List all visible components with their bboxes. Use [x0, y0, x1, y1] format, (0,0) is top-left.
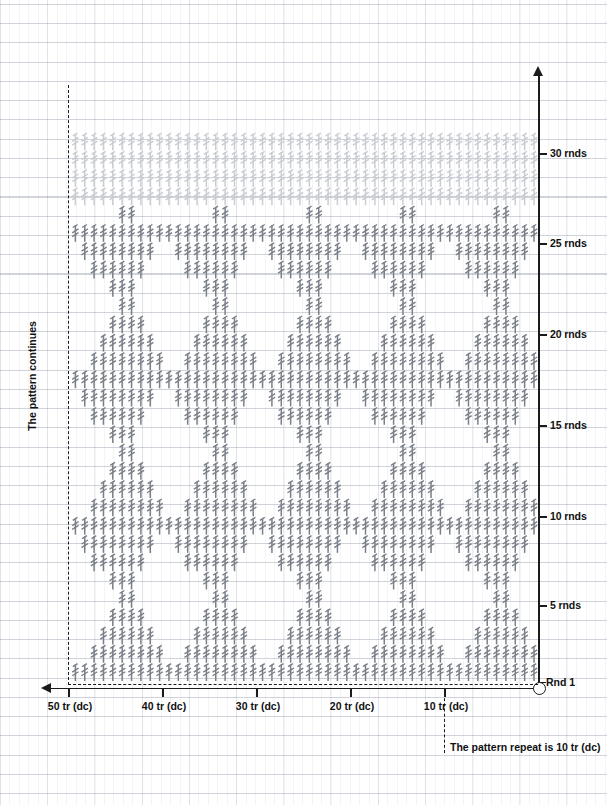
stitches-tick-label: 40 tr (dc) [142, 700, 186, 712]
pattern-continues-label: The pattern continues [26, 316, 38, 436]
stitches-tick [256, 688, 258, 697]
stitch-round-23 [91, 261, 519, 278]
stitch-round-14 [110, 426, 510, 443]
stitches-tick [68, 688, 70, 697]
stitch-round-10 [91, 499, 537, 516]
stitch-round-7 [91, 554, 519, 571]
stitches-tick [350, 688, 352, 697]
rounds-tick [538, 516, 547, 518]
rounds-tick-label: 5 rnds [550, 599, 581, 611]
rounds-tick-label: 25 rnds [550, 237, 587, 249]
stitches-tick [444, 688, 446, 697]
rounds-tick-label: 30 rnds [550, 147, 587, 159]
stitch-round-26 [119, 206, 509, 223]
stitch-round-15 [91, 408, 519, 425]
stitch-round-8 [82, 536, 528, 553]
stitches-tick [162, 688, 164, 697]
stitch-round-24 [82, 243, 528, 260]
round-one-dashed-line [68, 684, 538, 685]
stitch-round-21 [119, 298, 509, 315]
stitch-round-27 [72, 188, 537, 205]
stitch-round-17 [72, 371, 537, 388]
stitch-round-3 [100, 627, 528, 644]
stitch-round-20 [110, 316, 519, 333]
rounds-tick [538, 605, 547, 607]
rounds-tick [538, 334, 547, 336]
rounds-tick-label: 15 rnds [550, 419, 587, 431]
stitches-tick-label: 10 tr (dc) [424, 700, 468, 712]
stitch-round-4 [110, 609, 519, 626]
rounds-axis [538, 72, 540, 688]
stitches-tick-label: 50 tr (dc) [48, 700, 92, 712]
stitch-round-6 [110, 572, 510, 589]
stitch-round-1 [72, 664, 537, 681]
stitch-round-19 [100, 334, 528, 351]
stitch-round-18 [91, 353, 537, 370]
stitch-round-5 [119, 591, 509, 608]
stitch-round-22 [110, 279, 510, 296]
rounds-axis-arrow-icon [533, 66, 543, 76]
rounds-tick [538, 153, 547, 155]
stitches-tick-label: 20 tr (dc) [330, 700, 374, 712]
stitch-round-2 [91, 645, 537, 662]
stitch-round-11 [100, 481, 528, 498]
rounds-tick [538, 243, 547, 245]
stitch-round-25 [72, 225, 537, 242]
rounds-tick [538, 425, 547, 427]
rounds-tick-label: 20 rnds [550, 328, 587, 340]
stitch-round-29 [72, 151, 537, 168]
stitch-round-9 [72, 517, 537, 534]
pattern-repeat-label: The pattern repeat is 10 tr (dc) [450, 741, 601, 753]
stitch-round-30 [72, 133, 537, 150]
stitch-round-16 [82, 389, 528, 406]
crochet-stitch-chart: 5 rnds10 rnds15 rnds20 rnds25 rnds30 rnd… [0, 0, 607, 805]
stitches-axis [46, 688, 538, 690]
stitch-round-28 [72, 170, 537, 187]
pattern-continues-dashed-line [68, 85, 69, 685]
stitch-round-13 [119, 444, 509, 461]
stitches-tick-label: 30 tr (dc) [236, 700, 280, 712]
stitches-axis-arrow-icon [41, 683, 51, 693]
round-one-label: Rnd 1 [546, 676, 575, 688]
rounds-tick-label: 10 rnds [550, 510, 587, 522]
stitch-round-12 [110, 462, 519, 479]
